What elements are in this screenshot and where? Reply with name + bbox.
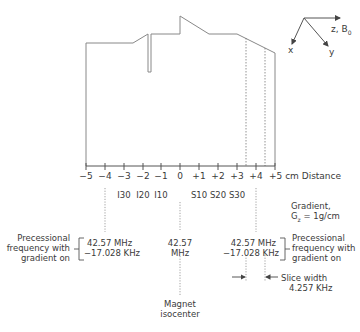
right-caption: Precessional frequency with gradient on bbox=[292, 233, 355, 263]
y-axis-label: y bbox=[329, 47, 334, 57]
left-frequency-value: 42.57 MHz −17.028 KHz bbox=[84, 238, 140, 258]
slice-width-label: Slice width 4.257 KHz bbox=[281, 273, 332, 293]
magnet-isocenter-label: Magnet isocenter bbox=[160, 299, 199, 319]
tick-label: +4 bbox=[249, 171, 262, 181]
tick-label: 0 bbox=[177, 171, 183, 181]
segment-label: I30 bbox=[117, 190, 130, 200]
tick-label: −2 bbox=[136, 171, 149, 181]
tick-label: −5 bbox=[79, 171, 92, 181]
distance-axis-line bbox=[86, 163, 275, 170]
tick-label: +1 bbox=[192, 171, 205, 181]
tick-label: −3 bbox=[117, 171, 130, 181]
tick-label: +2 bbox=[211, 171, 224, 181]
segment-label: I20 bbox=[136, 190, 149, 200]
body-outline bbox=[86, 16, 275, 166]
tick-label: +3 bbox=[230, 171, 243, 181]
center-frequency-value: 42.57 MHz bbox=[168, 238, 192, 258]
slice-lines bbox=[246, 38, 265, 166]
z-axis-label: z, B0 bbox=[331, 24, 351, 38]
segment-label: S10 bbox=[191, 190, 207, 200]
left-caption: Precessional frequency with gradient on bbox=[7, 233, 70, 263]
gradient-label: Gradient, Gz = 1g/cm bbox=[291, 201, 340, 225]
right-frequency-value: 42.57 MHz −17.028 KHz bbox=[223, 238, 279, 258]
segment-label: S20 bbox=[210, 190, 226, 200]
x-axis-label: x bbox=[288, 45, 293, 55]
segment-label: S30 bbox=[229, 190, 245, 200]
tick-label-distance: +5 cm Distance bbox=[269, 171, 341, 181]
tick-label: −1 bbox=[154, 171, 167, 181]
segment-label: I10 bbox=[154, 190, 167, 200]
tick-label: −4 bbox=[98, 171, 111, 181]
